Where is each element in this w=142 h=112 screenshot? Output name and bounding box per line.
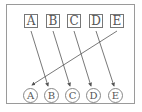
arrow-a-to-b [31, 31, 48, 86]
arrow-b-to-c [53, 31, 70, 86]
arrow-e-to-a [32, 31, 117, 85]
bottom-circle-e: E [108, 88, 123, 103]
bottom-circle-b: B [44, 88, 59, 103]
arrow-d-to-e [96, 31, 114, 86]
bottom-circle-a: A [23, 88, 38, 103]
bottom-circle-d: D [86, 88, 101, 103]
arrow-c-to-d [74, 31, 91, 86]
bottom-circle-c: C [65, 88, 80, 103]
